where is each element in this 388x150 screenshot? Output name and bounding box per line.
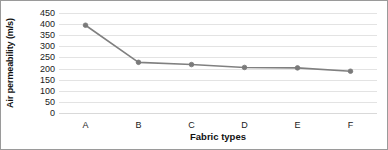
y-tick-label-450: 450	[40, 9, 55, 18]
data-point-B	[136, 60, 141, 65]
y-tick-label-150: 150	[40, 75, 55, 84]
x-axis-tick-labels: ABCDEF	[59, 119, 377, 131]
data-point-F	[348, 69, 353, 74]
data-series-line	[59, 13, 377, 113]
x-tick-label-B: B	[135, 119, 141, 131]
x-axis-title: Fabric types	[59, 131, 377, 143]
y-tick-label-0: 0	[50, 109, 55, 118]
y-tick-label-300: 300	[40, 42, 55, 51]
x-tick-label-E: E	[294, 119, 300, 131]
data-point-E	[295, 66, 300, 71]
chart-figure: Air permeability (m/s) 45040035030025020…	[0, 0, 388, 150]
y-axis-tick-labels: 450400350300250200150100500	[21, 13, 57, 113]
series-polyline	[86, 25, 351, 71]
y-tick-label-200: 200	[40, 64, 55, 73]
y-axis-title: Air permeability (m/s)	[3, 4, 17, 122]
data-point-C	[189, 62, 194, 67]
y-tick-label-250: 250	[40, 53, 55, 62]
data-point-D	[242, 65, 247, 70]
y-tick-label-350: 350	[40, 31, 55, 40]
plot-area	[59, 13, 377, 113]
x-tick-label-D: D	[241, 119, 248, 131]
gridline-0	[59, 113, 377, 114]
y-tick-label-100: 100	[40, 86, 55, 95]
x-tick-label-F: F	[348, 119, 354, 131]
y-tick-label-400: 400	[40, 20, 55, 29]
x-tick-label-C: C	[188, 119, 195, 131]
x-tick-label-A: A	[82, 119, 88, 131]
data-point-A	[83, 23, 88, 28]
y-tick-label-50: 50	[45, 97, 55, 106]
